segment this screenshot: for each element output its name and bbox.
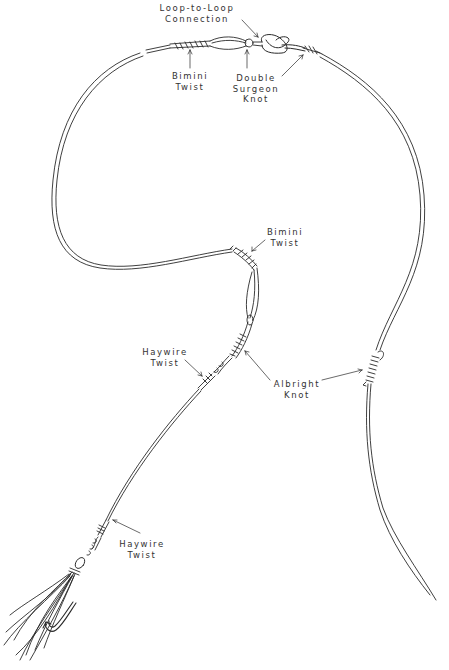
double-surgeon-knot [303, 46, 322, 54]
bimini-twist-middle-knot [230, 246, 259, 325]
bimini-twist-top-knot [170, 37, 246, 50]
label-line: Bimini [261, 227, 309, 238]
label-haywire-twist-lower: Haywire Twist [113, 539, 171, 560]
label-line: Twist [261, 238, 309, 249]
label-line: Surgeon [228, 84, 284, 95]
label-line: Double [228, 73, 284, 84]
wire-leader [106, 389, 201, 521]
fishing-rig-diagram [0, 0, 449, 670]
label-line: Loop-to-Loop [152, 3, 242, 14]
label-haywire-twist-upper: Haywire Twist [136, 347, 194, 368]
double-surgeon-small-knot [245, 39, 262, 47]
label-line: Twist [136, 358, 194, 369]
fly-lure [4, 556, 87, 660]
haywire-twist-upper-knot [198, 356, 232, 390]
label-bimini-twist-middle: Bimini Twist [261, 227, 309, 248]
label-line: Haywire [113, 539, 171, 550]
albright-knot-middle [230, 322, 252, 358]
label-double-surgeon-knot: Double Surgeon Knot [228, 73, 284, 105]
label-loop-to-loop-connection: Loop-to-Loop Connection [152, 3, 242, 24]
label-bimini-twist-top: Bimini Twist [166, 71, 214, 92]
label-line: Connection [152, 14, 242, 25]
label-albright-knot: Albright Knot [268, 379, 326, 400]
label-line: Twist [113, 550, 171, 561]
label-line: Albright [268, 379, 326, 390]
label-line: Haywire [136, 347, 194, 358]
label-line: Twist [166, 82, 214, 93]
label-line: Knot [268, 390, 326, 401]
loop-to-loop-knot [261, 35, 305, 54]
haywire-twist-lower-knot [87, 520, 109, 555]
label-line: Knot [228, 94, 284, 105]
albright-knot-right [363, 351, 436, 600]
label-line: Bimini [166, 71, 214, 82]
